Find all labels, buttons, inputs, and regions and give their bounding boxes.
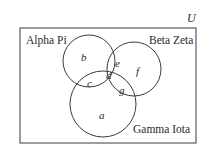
universe-label: U	[187, 11, 197, 25]
set-label-beta-zeta: Beta Zeta	[149, 34, 193, 46]
region-label-b: b	[81, 51, 87, 63]
set-label-gamma-iota: Gamma Iota	[133, 123, 190, 135]
region-label-f: f	[136, 65, 141, 77]
set-label-alpha-pi: Alpha Pi	[26, 34, 67, 47]
region-label-c: c	[87, 77, 92, 89]
region-label-e: e	[115, 57, 120, 69]
region-label-d: d	[106, 69, 112, 81]
venn-diagram: U Alpha Pi Beta Zeta Gamma Iota b e f d …	[0, 0, 215, 154]
region-label-g: g	[119, 84, 125, 96]
region-label-a: a	[99, 109, 105, 121]
circle-beta-zeta	[107, 42, 161, 96]
circle-gamma-iota	[70, 71, 136, 137]
